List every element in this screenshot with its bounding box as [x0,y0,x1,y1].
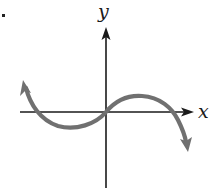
graph-figure: y x [0,0,211,188]
x-axis-label: x [198,102,209,121]
y-axis-label: y [98,2,109,21]
graph-canvas [0,0,211,188]
